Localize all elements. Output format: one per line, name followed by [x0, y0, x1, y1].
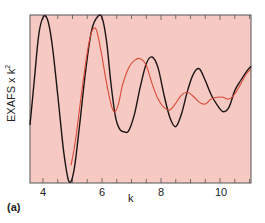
x-tick-label-4: 4 [40, 186, 46, 198]
plot-area [30, 15, 251, 183]
x-axis-label: k [128, 192, 134, 204]
panel-label: (a) [7, 201, 20, 213]
y-axis-label: EXAFS x k2 [4, 65, 17, 122]
x-tick-label-8: 8 [158, 186, 164, 198]
y-axis-label-text: EXAFS x k [5, 69, 17, 122]
y-axis-label-superscript: 2 [4, 65, 11, 69]
x-tick-label-6: 6 [99, 186, 105, 198]
x-tick-label-10: 10 [215, 186, 227, 198]
